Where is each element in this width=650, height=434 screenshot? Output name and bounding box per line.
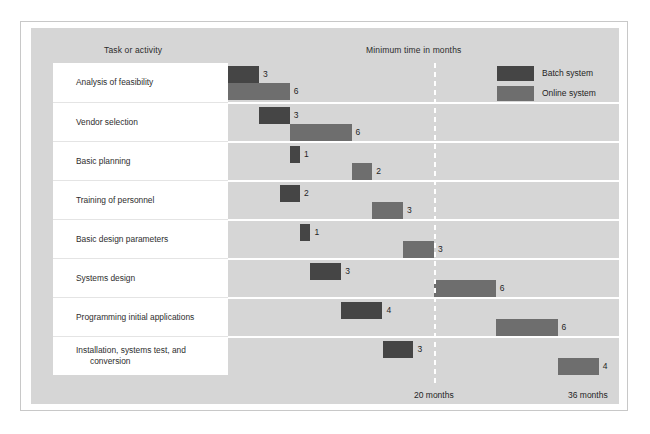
twenty-month-marker-line [434,63,436,387]
batch-bar-value: 3 [345,263,350,280]
online-bar-value: 6 [500,280,505,297]
online-bar [434,280,496,297]
batch-bar [290,146,300,163]
task-label-cell: Basic design parameters [53,219,228,258]
legend-swatch-online [497,86,534,101]
batch-bar-value: 3 [294,107,299,124]
batch-bar-value: 2 [304,185,309,202]
task-label-text: Programming initial applications [76,312,194,322]
task-label-text: Installation, systems test, and [76,345,186,355]
task-label-cell: Installation, systems test, andconversio… [53,336,228,375]
legend-label: Online system [542,87,596,100]
chart-row: 46 [228,297,619,336]
task-label-text: Basic design parameters [76,234,168,244]
task-label-cell: Systems design [53,258,228,297]
chart-row: 13 [228,219,619,258]
batch-bar [228,66,259,83]
chart-row: 23 [228,180,619,219]
online-bar [372,202,403,219]
chart-row: 34 [228,336,619,375]
task-label-text-line2: conversion [76,356,186,367]
task-label-text: Analysis of feasibility [76,77,153,87]
online-bar-value: 3 [407,202,412,219]
chart-plot-area: 3636122313364634 [228,63,619,375]
axis-label-20-months: 20 months [414,390,454,400]
online-bar [558,358,599,375]
online-bar-value: 3 [438,241,443,258]
task-label-text: Vendor selection [76,117,138,127]
batch-bar-value: 1 [304,146,309,163]
batch-bar [259,107,290,124]
task-label-cell: Vendor selection [53,102,228,141]
online-bar-value: 6 [294,83,299,100]
batch-bar [310,263,341,280]
online-bar [290,124,352,141]
online-bar-value: 2 [376,163,381,180]
task-label-cell: Programming initial applications [53,297,228,336]
online-bar-value: 4 [603,358,608,375]
task-label-text: Basic planning [76,156,130,166]
task-label-cell: Basic planning [53,141,228,180]
task-label-cell: Training of personnel [53,180,228,219]
axis-label-36-months: 36 months [568,390,608,400]
chart-row: 36 [228,258,619,297]
gantt-chart-figure: Task or activity Minimum time in months … [0,0,650,434]
batch-bar-value: 3 [417,341,422,358]
online-bar [403,241,434,258]
legend-label: Batch system [542,67,593,80]
batch-bar [383,341,414,358]
batch-bar [341,302,382,319]
batch-bar [300,224,310,241]
online-bar [352,163,373,180]
chart-row: 12 [228,141,619,180]
batch-bar-value: 4 [387,302,392,319]
task-label-text: Systems design [76,273,135,283]
task-column-header: Task or activity [104,45,162,55]
time-column-header: Minimum time in months [366,45,461,55]
online-bar [496,319,558,336]
task-label-cell: Analysis of feasibility [53,63,228,102]
chart-row: 36 [228,102,619,141]
batch-bar [280,185,301,202]
online-bar [228,83,290,100]
legend-swatch-batch [497,66,534,81]
batch-bar-value: 1 [314,224,319,241]
task-label-text: Training of personnel [76,195,154,205]
batch-bar-value: 3 [263,66,268,83]
online-bar-value: 6 [356,124,361,141]
online-bar-value: 6 [562,319,567,336]
task-label-column: Analysis of feasibilityVendor selectionB… [53,63,228,375]
